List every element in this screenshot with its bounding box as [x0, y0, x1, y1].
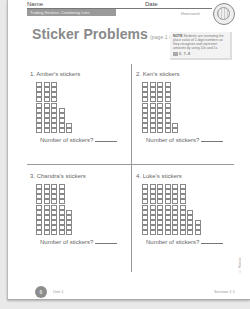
problem-label: 2. Ken's stickers: [136, 71, 180, 77]
sticker-square: [36, 128, 42, 133]
problem-label: 3. Chandra's stickers: [30, 173, 86, 179]
problems-grid: 1. Amber's stickers Number of stickers? …: [27, 64, 234, 272]
copyright: © Pearson Education 2: [238, 245, 241, 273]
problem-2: 2. Ken's stickers Number of stickers?: [133, 64, 233, 164]
sticker-square: [150, 230, 156, 235]
title-main: Sticker Problems: [32, 26, 148, 42]
ten-stick: [150, 184, 156, 235]
sticker-square: [59, 230, 65, 235]
sticker-square: [142, 128, 148, 133]
ten-stick: [157, 184, 163, 235]
ten-stick: [142, 82, 148, 133]
grid-divider-horizontal: [27, 164, 234, 165]
sticker-blocks: [36, 183, 74, 235]
answer-prompt[interactable]: Number of stickers?: [146, 239, 223, 245]
answer-prompt[interactable]: Number of stickers?: [40, 239, 117, 245]
sticker-square: [187, 230, 193, 235]
sticker-square: [51, 230, 57, 235]
ones-column: [59, 108, 65, 133]
problem-1: 1. Amber's stickers Number of stickers?: [27, 64, 127, 164]
page-number-badge: 6: [35, 286, 47, 298]
homework-label: Homework: [181, 11, 200, 16]
sticker-square: [51, 128, 57, 133]
problem-3: 3. Chandra's stickers Number of stickers…: [27, 166, 127, 266]
sticker-square: [157, 230, 163, 235]
answer-prompt[interactable]: Number of stickers?: [40, 137, 117, 143]
ones-column: [66, 210, 72, 235]
ten-stick: [165, 184, 171, 235]
worksheet-page: Name Date Trading Stickers, Combining Li…: [7, 0, 250, 300]
ten-stick: [36, 82, 42, 133]
ten-stick: [44, 82, 50, 133]
ones-column: [195, 220, 201, 235]
sticker-blocks: [142, 81, 180, 133]
answer-line: [95, 243, 117, 244]
sticker-blocks: [142, 183, 202, 235]
problem-label: 1. Amber's stickers: [30, 71, 80, 77]
book-icon: [173, 52, 178, 56]
sticker-square: [172, 128, 178, 133]
problem-4: 4. Luke's stickers Number of stickers?: [133, 166, 233, 266]
sticker-square: [150, 128, 156, 133]
footer-unit: Unit 1: [53, 289, 63, 294]
sticker-square: [59, 128, 65, 133]
sticker-square: [180, 230, 186, 235]
ten-stick: [165, 82, 171, 133]
ones-column: [172, 123, 178, 133]
sticker-square: [142, 230, 148, 235]
page-title: Sticker Problems(page 1 of 2): [32, 26, 180, 42]
sticker-square: [195, 230, 201, 235]
ten-stick: [51, 184, 57, 235]
ten-stick: [51, 82, 57, 133]
sticker-blocks: [36, 81, 74, 133]
sticker-square: [165, 230, 171, 235]
answer-line: [201, 141, 223, 142]
problem-label: 4. Luke's stickers: [136, 173, 182, 179]
teacher-note: NOTE Students are reviewing the place va…: [170, 32, 232, 60]
answer-line: [95, 141, 117, 142]
sticker-square: [66, 128, 72, 133]
sticker-square: [165, 128, 171, 133]
footer-session: Session 1.1: [214, 289, 235, 294]
sticker-square: [172, 230, 178, 235]
investigation-banner: Trading Stickers, Combining Lists: [27, 9, 116, 16]
ten-stick: [150, 82, 156, 133]
ones-column: [66, 123, 72, 133]
sticker-square: [44, 230, 50, 235]
ten-stick: [36, 184, 42, 235]
ten-stick: [172, 184, 178, 235]
date-label: Date: [145, 1, 158, 7]
note-reference: 6, 7–8: [173, 52, 227, 56]
ten-stick: [180, 184, 186, 235]
answer-line: [201, 243, 223, 244]
answer-prompt[interactable]: Number of stickers?: [146, 137, 223, 143]
ten-stick: [59, 184, 65, 235]
homework-seal-icon: [213, 3, 235, 25]
ten-stick: [142, 184, 148, 235]
grid-divider-vertical: [131, 64, 132, 272]
name-label: Name: [27, 1, 43, 7]
ten-stick: [157, 82, 163, 133]
ones-column: [187, 210, 193, 235]
ten-stick: [44, 184, 50, 235]
sticker-square: [157, 128, 163, 133]
sticker-square: [66, 230, 72, 235]
sticker-square: [44, 128, 50, 133]
sticker-square: [36, 230, 42, 235]
